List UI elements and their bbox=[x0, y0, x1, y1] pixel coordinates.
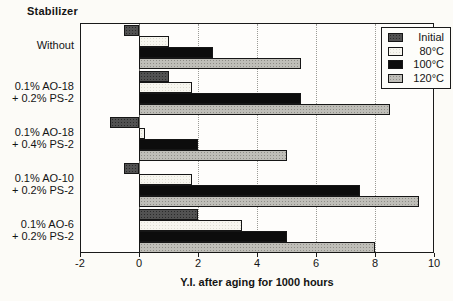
chart-figure: Stabilizer Without0.1% AO-18+ 0.2% PS-20… bbox=[0, 0, 453, 301]
bar bbox=[124, 163, 139, 174]
category-label-line: 0.1% AO-18 bbox=[0, 127, 74, 139]
legend-item: Initial bbox=[388, 32, 444, 43]
x-tick-label: 10 bbox=[428, 257, 440, 269]
bar bbox=[139, 58, 301, 69]
legend-label: 120°C bbox=[408, 73, 444, 84]
bar bbox=[139, 242, 375, 253]
category-label-line: + 0.2% PS-2 bbox=[0, 184, 74, 196]
x-tick-label: 0 bbox=[136, 257, 142, 269]
category-label-line: 0.1% AO-10 bbox=[0, 173, 74, 185]
category-label-line: Without bbox=[0, 40, 74, 52]
bar bbox=[139, 174, 192, 185]
bar bbox=[139, 139, 198, 150]
legend-swatch bbox=[388, 60, 403, 69]
legend-swatch bbox=[388, 33, 403, 42]
x-tick-label: 6 bbox=[313, 257, 319, 269]
bar bbox=[139, 128, 145, 139]
bar bbox=[139, 71, 169, 82]
bar bbox=[139, 185, 360, 196]
legend: Initial80°C100°C120°C bbox=[381, 27, 451, 89]
bar bbox=[110, 117, 140, 128]
bar bbox=[139, 196, 419, 207]
legend-swatch bbox=[388, 47, 403, 56]
category-label-line: 0.1% AO-18 bbox=[0, 81, 74, 93]
legend-item: 120°C bbox=[388, 73, 444, 84]
gridline bbox=[316, 24, 317, 252]
x-tick-label: -2 bbox=[75, 257, 85, 269]
category-label-line: 0.1% AO-6 bbox=[0, 219, 74, 231]
category-label: 0.1% AO-10+ 0.2% PS-2 bbox=[0, 173, 74, 196]
bar bbox=[139, 47, 213, 58]
bar bbox=[139, 220, 242, 231]
stabilizer-axis-title: Stabilizer bbox=[27, 5, 78, 17]
bar bbox=[139, 104, 390, 115]
legend-label: Initial bbox=[408, 32, 444, 43]
category-label-line: + 0.4% PS-2 bbox=[0, 138, 74, 150]
category-label: 0.1% AO-18+ 0.4% PS-2 bbox=[0, 127, 74, 150]
legend-label: 80°C bbox=[408, 46, 444, 57]
bar bbox=[139, 231, 287, 242]
gridline bbox=[375, 24, 376, 252]
category-label: 0.1% AO-18+ 0.2% PS-2 bbox=[0, 81, 74, 104]
category-label-line: + 0.2% PS-2 bbox=[0, 230, 74, 242]
x-tick-label: 8 bbox=[372, 257, 378, 269]
bar bbox=[139, 150, 287, 161]
legend-swatch bbox=[388, 74, 403, 83]
x-tick-label: 2 bbox=[195, 257, 201, 269]
category-label: Without bbox=[0, 40, 74, 52]
bar bbox=[139, 209, 198, 220]
category-label-line: + 0.2% PS-2 bbox=[0, 92, 74, 104]
category-label: 0.1% AO-6+ 0.2% PS-2 bbox=[0, 219, 74, 242]
bar bbox=[139, 93, 301, 104]
x-axis-title: Y.I. after aging for 1000 hours bbox=[80, 276, 434, 288]
legend-item: 80°C bbox=[388, 46, 444, 57]
legend-label: 100°C bbox=[408, 59, 444, 70]
x-tick-label: 4 bbox=[254, 257, 260, 269]
legend-item: 100°C bbox=[388, 59, 444, 70]
bar bbox=[139, 82, 192, 93]
bar bbox=[124, 25, 139, 36]
bar bbox=[139, 36, 169, 47]
